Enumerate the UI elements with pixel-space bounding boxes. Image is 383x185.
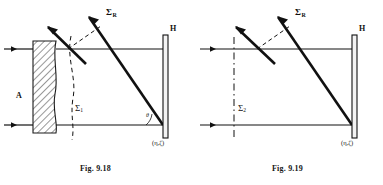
sigma-r-label: ΣR [295,8,306,19]
hologram-plate [352,35,357,138]
sigma-2-label: Σ2 [238,104,246,114]
figure-9-18-drawing [0,0,191,160]
angle-theta-label: θ [146,112,149,118]
hologram-plate [163,35,168,138]
figure-9-19: ΣR Σ2 H (η,ζ) Fig. 9.19 [192,0,383,185]
diffuser-plate-shape [33,41,56,133]
hologram-label-h: H [170,25,176,33]
reference-ray-long-arrowhead [277,16,288,25]
hologram-label-h: H [359,25,365,33]
upper-beam-arrowhead [11,46,17,51]
sigma-r-label: ΣR [106,8,117,19]
figure-9-19-drawing [192,0,383,160]
reference-ray-long [89,17,163,125]
reference-ray-long-arrowhead [88,16,99,25]
reference-ray-long [278,17,352,125]
figure-9-19-caption: Fig. 9.19 [192,164,383,173]
reference-ray-short-arrowhead [47,26,58,35]
lower-beam-arrowhead [11,122,17,127]
coordinate-label: (η,ζ) [341,140,353,147]
figure-9-18-caption: Fig. 9.18 [0,164,191,173]
upper-beam-arrowhead [210,46,216,51]
coordinate-label: (η,ζ) [152,140,164,147]
figure-9-18: ΣR Σ1 H A θ (η,ζ) Fig. 9.18 [0,0,191,185]
sigma-1-label: Σ1 [75,104,83,114]
lower-beam-arrowhead [210,122,216,127]
diffuser-label-a: A [16,92,22,100]
